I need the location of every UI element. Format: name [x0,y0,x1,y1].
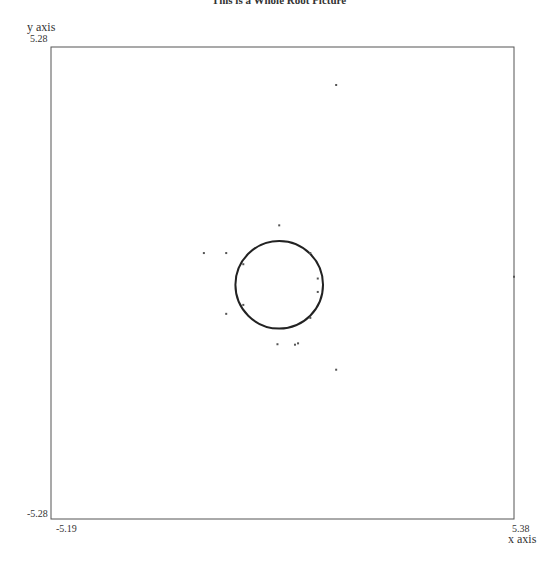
root-point [297,342,299,344]
root-point [276,343,278,345]
root-circle [235,241,323,329]
root-point [278,224,280,226]
root-points [203,84,515,371]
root-point [335,369,337,371]
root-point [294,344,296,346]
root-point [335,84,337,86]
root-point [242,304,244,306]
root-point [225,313,227,315]
root-point [225,252,227,254]
root-point [317,291,319,293]
root-point [513,276,515,278]
root-point [317,278,319,280]
plot-area [0,0,558,569]
root-point [242,263,244,265]
root-point [203,252,205,254]
root-point [309,317,311,319]
plot-frame [51,47,514,519]
root-point [309,252,311,254]
